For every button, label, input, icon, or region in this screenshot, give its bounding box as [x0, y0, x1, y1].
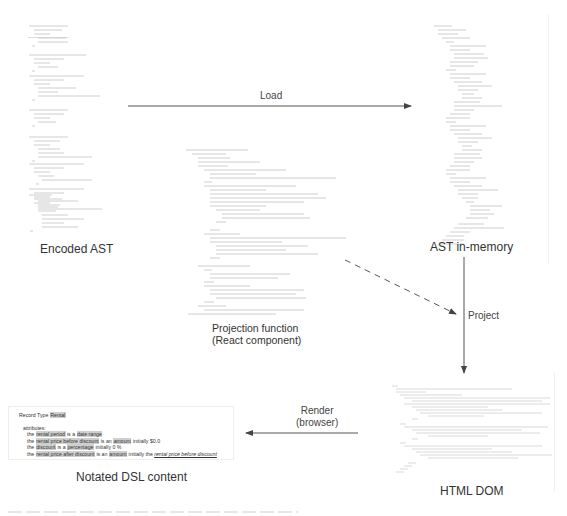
projection-function-code-lines: [186, 148, 376, 316]
projection-function-label-line1: Projection function: [212, 322, 301, 334]
projection-function-code-block: [186, 148, 376, 316]
ast-in-memory-label-visible: AST in-memory: [430, 240, 513, 254]
attribute-type[interactable]: amount: [109, 451, 127, 457]
attribute-name[interactable]: discount: [36, 444, 56, 450]
record-type-name[interactable]: Rental: [50, 412, 66, 418]
attribute-name[interactable]: rental price after discount: [36, 451, 95, 457]
figure-caption-placeholder: [8, 511, 298, 513]
attribute-row: the rental price after discount is an am…: [27, 451, 217, 458]
attribute-initial-value[interactable]: 0 %: [112, 444, 121, 450]
record-type-line: Record Type Rental: [19, 412, 66, 419]
notated-dsl-panel: Record Type Rental attributes: the renta…: [8, 406, 234, 460]
attribute-verb: is an: [96, 451, 107, 457]
record-type-keyword: Record Type: [19, 412, 48, 418]
attribute-initial-value[interactable]: $0.0: [150, 438, 160, 444]
html-dom-code-block: [392, 384, 552, 464]
html-dom-code-block-2: [392, 462, 432, 476]
attribute-verb: is a: [57, 444, 65, 450]
project-label: Project: [468, 310, 499, 322]
attribute-name[interactable]: rental price before discount: [36, 438, 100, 444]
html-dom-panel-edge: [554, 372, 555, 492]
attribute-initially: initially: [95, 444, 111, 450]
attribute-row: the discount is a percentage initially 0…: [27, 444, 217, 451]
attribute-article: the: [27, 431, 34, 437]
render-label-line1: Render: [296, 405, 338, 417]
attribute-type[interactable]: amount: [113, 438, 131, 444]
encoded-ast-code-block-2: [28, 193, 128, 233]
attribute-type[interactable]: percentage: [67, 444, 94, 450]
render-label: Render (browser): [296, 405, 338, 429]
attribute-article: the: [27, 451, 34, 457]
attribute-initially: initially the: [129, 451, 153, 457]
attribute-article: the: [27, 444, 34, 450]
encoded-ast-label: Encoded AST: [40, 242, 113, 256]
attribute-row: the rental price before discount is an a…: [27, 438, 217, 445]
attribute-verb: is a: [67, 431, 75, 437]
attribute-article: the: [27, 438, 34, 444]
attribute-row: the rental period is a date range: [27, 431, 217, 438]
attribute-name[interactable]: rental period: [36, 431, 66, 437]
ast-in-memory-code-lines: [434, 24, 544, 224]
encoded-ast-code-lines-2: [28, 193, 128, 233]
attributes-list: the rental period is a date range the re…: [27, 431, 217, 457]
projection-function-label: Projection function (React component): [212, 322, 301, 346]
attribute-verb: is an: [101, 438, 112, 444]
notated-dsl-label: Notated DSL content: [76, 470, 187, 484]
load-label: Load: [260, 90, 282, 102]
ast-panel-edge: [548, 14, 549, 264]
ast-in-memory-code-block: [434, 24, 544, 224]
html-dom-code-lines-2: [392, 462, 432, 476]
render-label-line2: (browser): [296, 417, 338, 429]
html-dom-label: HTML DOM: [440, 484, 504, 498]
attribute-reference-link[interactable]: rental price before discount: [154, 451, 217, 457]
attribute-initially: initially: [133, 438, 149, 444]
attribute-type[interactable]: date range: [77, 431, 103, 437]
html-dom-code-lines: [392, 384, 552, 464]
projection-function-label-line2: (React component): [212, 334, 301, 346]
